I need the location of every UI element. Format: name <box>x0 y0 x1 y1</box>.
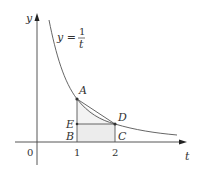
label-B: B <box>65 130 74 143</box>
diagram-canvas: y t 0 1 2 A D E B C y = 1 t <box>0 0 204 169</box>
equation-lhs: y = <box>56 31 76 44</box>
point-A <box>75 97 78 100</box>
label-A: A <box>78 84 87 97</box>
label-D: D <box>117 111 127 124</box>
point-D <box>113 122 116 125</box>
y-axis-arrow-icon <box>35 13 40 21</box>
y-axis-label: y <box>25 12 33 25</box>
t-axis-arrow-icon <box>179 140 187 145</box>
tick-label-2: 2 <box>112 147 118 158</box>
origin-label: 0 <box>27 147 33 158</box>
t-axis-label: t <box>185 150 190 163</box>
shaded-rectangle <box>77 124 115 142</box>
label-C: C <box>118 130 127 143</box>
point-E <box>76 123 79 126</box>
tick-label-1: 1 <box>74 147 80 158</box>
equation-numerator: 1 <box>79 26 85 37</box>
equation-denominator: t <box>79 38 84 51</box>
